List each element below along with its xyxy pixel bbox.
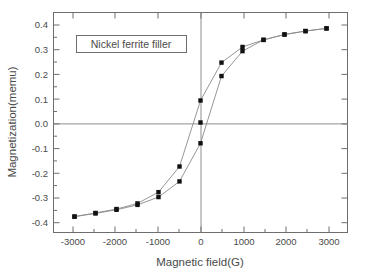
data-point-marker bbox=[135, 201, 139, 205]
y-axis-title: Magnetization(memu) bbox=[6, 66, 18, 177]
y-ticklabel-8: -0.4 bbox=[32, 217, 48, 228]
y-ticklabel-1: 0.3 bbox=[35, 44, 48, 55]
data-point-marker bbox=[219, 74, 223, 78]
data-point-marker bbox=[240, 45, 244, 49]
data-point-marker bbox=[198, 120, 202, 124]
data-point-marker bbox=[93, 211, 97, 215]
x-axis-title: Magnetic field(G) bbox=[156, 256, 244, 268]
data-point-marker bbox=[72, 214, 76, 218]
hysteresis-chart-figure: -3000 -2000 -1000 0 1000 2000 3000 0.4 0… bbox=[0, 0, 369, 280]
data-point-marker bbox=[198, 141, 202, 145]
data-point-marker bbox=[282, 32, 286, 36]
data-point-marker bbox=[324, 26, 328, 30]
annotation-label: Nickel ferrite filler bbox=[91, 38, 172, 50]
data-point-marker bbox=[156, 195, 160, 199]
y-ticklabel-5: -0.1 bbox=[32, 143, 48, 154]
data-point-marker bbox=[198, 98, 202, 102]
chart-canvas: -3000 -2000 -1000 0 1000 2000 3000 0.4 0… bbox=[0, 0, 369, 280]
data-point-marker bbox=[261, 38, 265, 42]
y-ticklabel-0: 0.4 bbox=[35, 19, 48, 30]
data-point-marker bbox=[156, 190, 160, 194]
data-point-marker bbox=[177, 179, 181, 183]
x-ticklabel-3: 0 bbox=[198, 236, 203, 247]
x-ticklabel-4: 1000 bbox=[233, 236, 254, 247]
data-point-marker bbox=[177, 164, 181, 168]
annotation-box: Nickel ferrite filler bbox=[77, 36, 187, 53]
y-ticklabel-2: 0.2 bbox=[35, 69, 48, 80]
chart-svg: -3000 -2000 -1000 0 1000 2000 3000 0.4 0… bbox=[0, 0, 369, 280]
data-point-marker bbox=[114, 207, 118, 211]
data-point-marker bbox=[303, 29, 307, 33]
y-ticklabel-7: -0.3 bbox=[32, 192, 48, 203]
x-ticklabel-0: -3000 bbox=[61, 236, 85, 247]
series-2 bbox=[198, 120, 202, 124]
bottom-page-strip bbox=[0, 271, 369, 280]
x-ticklabel-6: 3000 bbox=[318, 236, 339, 247]
data-point-marker bbox=[240, 49, 244, 53]
x-ticklabel-1: -2000 bbox=[103, 236, 127, 247]
y-ticklabel-4: 0.0 bbox=[35, 118, 48, 129]
x-ticklabel-2: -1000 bbox=[146, 236, 170, 247]
y-ticklabel-3: 0.1 bbox=[35, 94, 48, 105]
data-point-marker bbox=[219, 60, 223, 64]
x-ticklabel-5: 2000 bbox=[275, 236, 296, 247]
y-ticklabel-6: -0.2 bbox=[32, 168, 48, 179]
